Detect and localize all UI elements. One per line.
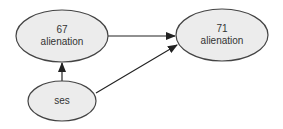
- path-diagram: [0, 0, 283, 129]
- node-ses-label: ses: [54, 95, 70, 107]
- node-ses-name: ses: [54, 95, 70, 107]
- edge-ses-to-alienation71: [96, 45, 177, 93]
- node-alienation71-label: 71 alienation: [201, 23, 244, 47]
- node-alienation67-year: 67: [41, 24, 84, 36]
- node-alienation71-year: 71: [201, 23, 244, 35]
- node-alienation67-label: 67 alienation: [41, 24, 84, 48]
- node-alienation71-name: alienation: [201, 35, 244, 47]
- node-alienation67-name: alienation: [41, 36, 84, 48]
